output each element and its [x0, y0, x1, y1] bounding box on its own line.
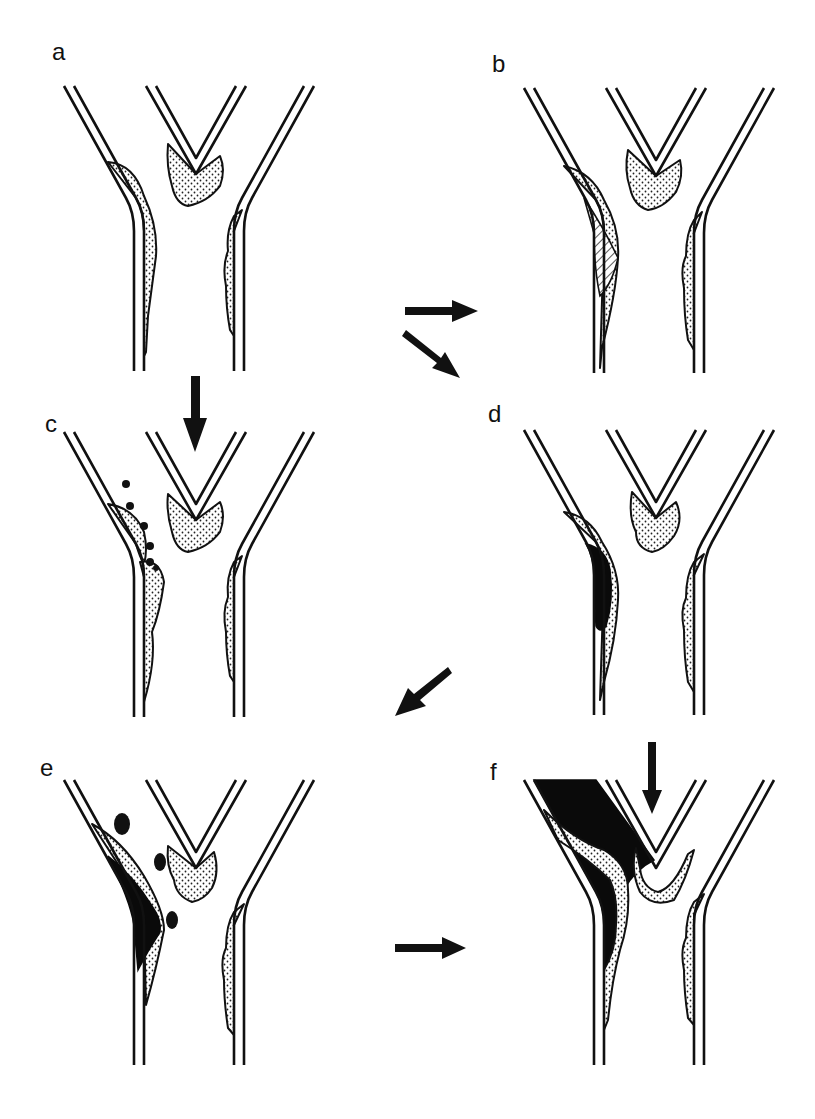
panel-c	[64, 432, 314, 717]
diagram-canvas	[0, 0, 815, 1119]
panel-e	[64, 780, 314, 1065]
arrow-d-to-e	[395, 667, 452, 716]
arrow-a-to-d	[402, 330, 460, 378]
figure: a b c d e f	[0, 0, 815, 1119]
arrow-a-to-b	[405, 300, 478, 322]
panel-a	[64, 86, 314, 371]
panel-b	[524, 88, 774, 373]
plaque-divider	[626, 150, 681, 210]
plaque-right	[682, 212, 702, 350]
arrow-into-f	[642, 742, 662, 814]
panel-d	[524, 430, 774, 715]
plaque-divider	[168, 846, 217, 902]
panel-f	[524, 780, 774, 1065]
arrow-e-to-f	[395, 937, 466, 959]
arrow-into-c	[183, 376, 207, 452]
